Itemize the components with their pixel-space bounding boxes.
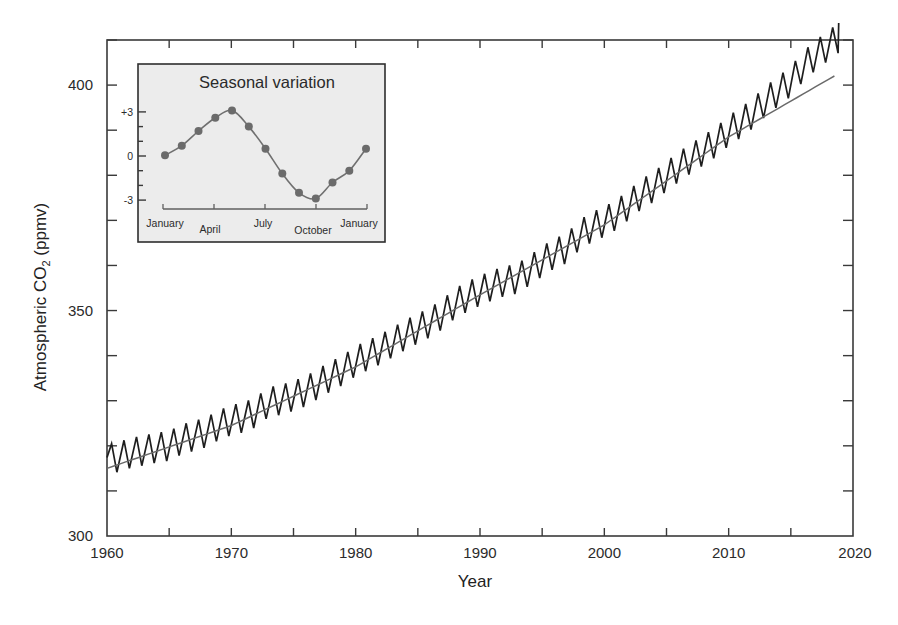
inset-title: Seasonal variation [199, 73, 335, 91]
x-tick-label: 1990 [463, 544, 496, 561]
x-tick-label: 1970 [215, 544, 248, 561]
y-axis-label-suffix: (ppmv) [31, 203, 50, 261]
x-axis-label: Year [458, 572, 493, 591]
y-axis-label: Atmospheric CO2 (ppmv) [31, 203, 52, 391]
inset-y-tick-label: +3 [121, 106, 133, 118]
inset-x-tick-label: July [254, 217, 273, 229]
inset-x-tick-label: April [199, 223, 220, 235]
inset-x-tick-label: October [294, 224, 332, 236]
y-tick-label: 300 [68, 527, 93, 544]
inset-data-point [312, 195, 320, 203]
inset-data-point [345, 167, 353, 175]
x-tick-label: 1980 [339, 544, 372, 561]
inset-data-point [228, 106, 236, 114]
inset-x-tick-label: January [340, 217, 378, 229]
inset-x-tick-label: January [146, 217, 184, 229]
inset-data-point [161, 151, 169, 159]
inset-data-point [262, 145, 270, 153]
inset-data-point [278, 170, 286, 178]
inset-y-tick-label: 0 [127, 150, 133, 162]
y-axis-label-main: Atmospheric CO [31, 267, 50, 392]
x-tick-label: 2000 [588, 544, 621, 561]
x-tick-label: 2010 [712, 544, 745, 561]
inset-data-point [211, 114, 219, 122]
x-tick-label: 2020 [838, 544, 871, 561]
inset-data-point [178, 142, 186, 150]
co2-chart: 1960197019801990200020102020 300350400 Y… [0, 0, 898, 625]
inset-y-tick-label: -3 [124, 194, 133, 206]
y-tick-label: 400 [68, 76, 93, 93]
inset-data-point [245, 123, 253, 131]
inset-data-point [195, 127, 203, 135]
inset-data-point [329, 179, 337, 187]
inset-data-point [362, 145, 370, 153]
inset-data-point [295, 189, 303, 197]
inset-seasonal-variation: Seasonal variation -30+3 JanuaryAprilJul… [121, 64, 385, 242]
y-tick-label: 350 [68, 302, 93, 319]
x-tick-label: 1960 [90, 544, 123, 561]
